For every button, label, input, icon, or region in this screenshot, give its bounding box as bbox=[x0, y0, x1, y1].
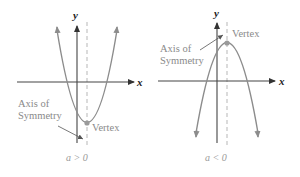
right-condition-label: a < 0 bbox=[205, 152, 227, 163]
left-axis-of-symmetry-label-1: Axis of bbox=[18, 98, 50, 109]
parabola-diagram: y x Axis of Symmetry Vertex a > 0 y x Ax… bbox=[0, 0, 300, 177]
right-vertex-dot bbox=[224, 40, 229, 45]
left-x-label: x bbox=[136, 76, 143, 88]
right-axis-of-symmetry-label-2: Symmetry bbox=[160, 55, 204, 66]
left-axis-of-symmetry-label-2: Symmetry bbox=[18, 110, 62, 121]
left-vertex-label: Vertex bbox=[92, 122, 120, 133]
left-vertex-dot bbox=[84, 120, 89, 125]
left-panel: y x Axis of Symmetry Vertex a > 0 bbox=[17, 9, 143, 163]
left-symmetry-pointer-icon bbox=[58, 126, 83, 139]
left-y-label: y bbox=[71, 9, 78, 21]
right-y-label: y bbox=[212, 7, 219, 19]
right-parabola-arrow-right bbox=[257, 130, 258, 137]
right-axis-of-symmetry-label-1: Axis of bbox=[160, 43, 192, 54]
left-parabola-arrow-right bbox=[116, 27, 117, 33]
left-condition-label: a > 0 bbox=[66, 152, 88, 163]
right-panel: y x Axis of Symmetry Vertex a < 0 bbox=[158, 7, 285, 163]
right-parabola-arrow-left bbox=[196, 130, 197, 137]
left-parabola-arrow-left bbox=[57, 27, 58, 33]
right-x-label: x bbox=[278, 75, 285, 87]
right-vertex-label: Vertex bbox=[232, 28, 260, 39]
